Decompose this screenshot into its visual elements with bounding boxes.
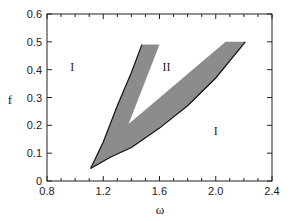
- y-tick-label: 0.3: [27, 92, 42, 104]
- tick-labels: 0.81.21.62.02.400.10.20.30.40.50.6: [27, 8, 280, 197]
- region-label: II: [163, 60, 171, 74]
- axis-ticks: [47, 14, 272, 181]
- y-tick-label: 0.5: [27, 36, 42, 48]
- phase-diagram-chart: 0.81.21.62.02.400.10.20.30.40.50.6 ω f I…: [0, 0, 293, 221]
- y-tick-label: 0: [36, 175, 42, 187]
- y-tick-label: 0.6: [27, 8, 42, 20]
- x-tick-label: 2.0: [208, 185, 223, 197]
- plot-frame: [47, 14, 272, 181]
- y-tick-label: 0.2: [27, 119, 42, 131]
- x-axis-label: ω: [156, 202, 165, 217]
- x-tick-label: 1.6: [152, 185, 167, 197]
- y-tick-label: 0.1: [27, 147, 42, 159]
- region-label: I: [70, 60, 74, 74]
- y-tick-label: 0.4: [27, 64, 42, 76]
- y-axis-label: f: [8, 92, 13, 107]
- x-tick-label: 1.2: [96, 185, 111, 197]
- region-label: I: [214, 124, 218, 138]
- x-tick-label: 2.4: [264, 185, 279, 197]
